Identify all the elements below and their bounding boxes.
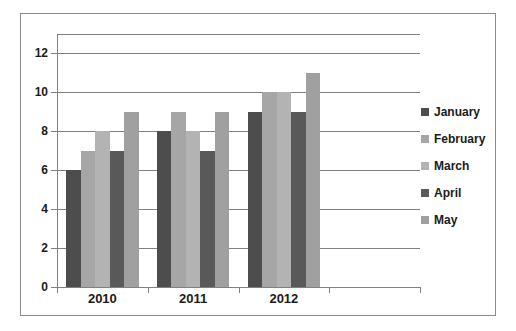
bar-may-2011 [215, 112, 230, 287]
bar-february-2010 [81, 151, 96, 287]
bar-may-2012 [306, 73, 321, 287]
legend-label-march: March [434, 158, 469, 174]
x-tick-4 [420, 287, 421, 293]
bar-january-2011 [157, 131, 172, 287]
legend-swatch-icon-march [421, 162, 429, 170]
legend-label-january: January [434, 104, 480, 120]
x-tick-label-2010: 2010 [57, 291, 148, 306]
y-tick-label-6: 6 [22, 164, 48, 176]
bar-april-2011 [200, 151, 215, 287]
bar-april-2012 [291, 112, 306, 287]
y-tick-label-8: 8 [22, 125, 48, 137]
bar-february-2012 [262, 92, 277, 287]
bar-april-2010 [110, 151, 125, 287]
bar-march-2010 [95, 131, 110, 287]
y-tick-label-2: 2 [22, 242, 48, 254]
y-tick-label-12: 12 [22, 47, 48, 59]
y-tick-label-0: 0 [22, 281, 48, 293]
bar-march-2012 [277, 92, 292, 287]
bar-may-2010 [124, 112, 139, 287]
chart-figure: 024681012 201020112012 JanuaryFebruaryMa… [0, 0, 516, 331]
bar-january-2010 [66, 170, 81, 287]
legend-swatch-icon-january [421, 108, 429, 116]
bar-march-2011 [186, 131, 201, 287]
legend-label-may: May [434, 212, 457, 228]
bar-january-2012 [248, 112, 263, 287]
x-tick-3 [329, 287, 330, 293]
legend-swatch-icon-may [421, 216, 429, 224]
legend-swatch-icon-february [421, 135, 429, 143]
bar-february-2011 [171, 112, 186, 287]
y-tick-label-4: 4 [22, 203, 48, 215]
y-tick-label-10: 10 [22, 86, 48, 98]
plot-area [57, 34, 420, 287]
legend-label-february: February [434, 131, 485, 147]
x-tick-label-2011: 2011 [148, 291, 239, 306]
legend-label-april: April [434, 185, 461, 201]
x-tick-label-2012: 2012 [239, 291, 330, 306]
legend-swatch-icon-april [421, 189, 429, 197]
